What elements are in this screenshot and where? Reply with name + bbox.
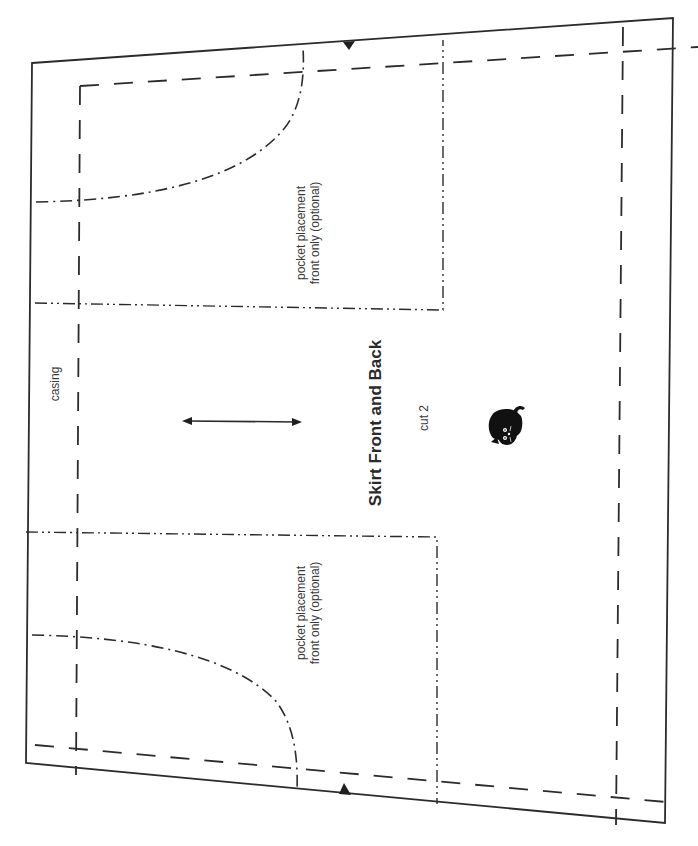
piece-title: Skirt Front and Back — [366, 340, 386, 506]
pocket-label-lower-line1: pocket placement — [295, 562, 309, 665]
casing-label: casing — [49, 367, 63, 402]
pocket-label-upper: pocket placement front only (optional) — [295, 182, 323, 285]
cutting-line-outline — [26, 18, 673, 823]
notch-bottom-icon — [339, 783, 351, 795]
notch-top-icon — [343, 41, 355, 50]
pocket-label-lower: pocket placement front only (optional) — [295, 562, 323, 665]
pocket-curve-upper — [36, 48, 303, 202]
sewing-pattern-sheet — [0, 0, 698, 846]
seam-line-left — [76, 86, 80, 775]
grainline-arrow — [182, 417, 302, 426]
pocket-label-upper-line1: pocket placement — [295, 182, 309, 285]
casing-fold-line — [616, 27, 623, 825]
pocket-label-lower-line2: front only (optional) — [309, 562, 323, 665]
cut-instruction: cut 2 — [418, 405, 432, 431]
pocket-placement-lower — [26, 532, 437, 804]
pocket-placement-upper — [35, 40, 443, 310]
black-cat-icon — [478, 403, 532, 447]
pocket-label-upper-line2: front only (optional) — [309, 182, 323, 285]
